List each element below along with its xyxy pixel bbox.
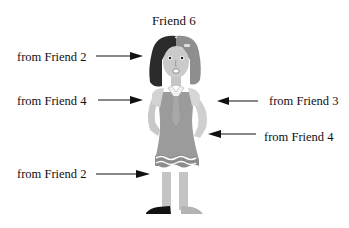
legs <box>146 172 203 214</box>
head <box>149 36 200 87</box>
composite-figure <box>0 0 349 228</box>
dress <box>152 86 200 168</box>
